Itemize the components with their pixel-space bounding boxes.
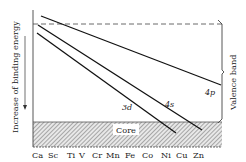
valence-band-label: Valence band [228,55,238,111]
element-axis: Ca Sc Ti V Cr Mn Fe Co Ni Cu Zn [32,150,205,160]
core-label: Core [116,125,136,135]
line-4s [38,25,202,130]
line-4p [41,16,221,85]
element-label: Ca [32,150,43,160]
element-label: Sc [48,150,59,160]
element-label: Mn [106,150,120,160]
binding-energy-diagram: Core 4p 4s 3d Increase of binding energy… [0,0,246,162]
element-label: Cr [92,150,102,160]
y-axis-label: Increase of binding energy [10,21,20,133]
element-label: Ni [161,150,171,160]
label-3d: 3d [122,103,132,112]
element-label: Zn [193,150,205,160]
label-4s: 4s [164,100,174,109]
down-arrow-icon [23,105,27,110]
label-4p: 4p [204,88,215,97]
element-label: V [78,150,86,160]
line-3d [37,33,176,133]
element-label: Cu [176,150,188,160]
element-label: Co [142,150,153,160]
element-label: Ti [67,150,75,160]
element-label: Fe [125,150,135,160]
valence-band-bracket [218,20,224,123]
